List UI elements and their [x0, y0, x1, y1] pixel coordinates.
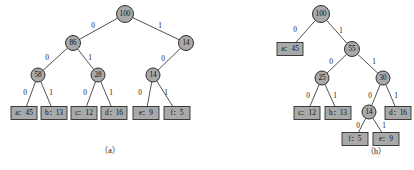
- node-label-a_28: 28: [94, 71, 102, 79]
- node-label-a_58: 58: [34, 71, 42, 79]
- edge-label-b_root-b_leaf_a: 0: [293, 25, 297, 34]
- leaf-label-b_leaf_e: e：9: [379, 134, 393, 143]
- node-label-b_25: 25: [318, 74, 326, 82]
- edge-a_14-to-a_leaf_e: [147, 82, 152, 107]
- edge-label-a_28-a_leaf_d: 1: [109, 88, 113, 97]
- edge-label-b_55-b_30: 1: [372, 57, 376, 66]
- edge-label-a_14r-a_14: 0: [161, 54, 165, 63]
- node-label-b_14: 14: [365, 108, 373, 116]
- edge-label-a_58-a_leaf_a: 0: [23, 88, 27, 97]
- edge-a_58-to-a_leaf_a: [26, 82, 35, 107]
- diagram-b: 0101010101100a：45552530c：12b：1314d：16f：5…: [277, 6, 411, 146]
- edge-label-a_28-a_leaf_c: 0: [83, 88, 87, 97]
- edge-b_14-to-b_leaf_e: [373, 118, 382, 133]
- edge-label-b_25-b_leaf_b: 1: [333, 91, 337, 100]
- leaf-label-a_leaf_d: d：16: [105, 108, 123, 117]
- edge-label-a_root-a_14r: 1: [158, 21, 162, 30]
- diagram-a: 010100101011008614582814a：45b：13c：12d：16…: [11, 6, 194, 120]
- node-label-b_30: 30: [379, 74, 387, 82]
- leaf-label-a_leaf_a: a：45: [15, 108, 33, 117]
- edge-label-b_30-b_14: 0: [368, 91, 372, 100]
- edge-label-b_14-b_leaf_e: 1: [382, 121, 386, 130]
- leaf-label-b_leaf_c: c：12: [298, 108, 316, 117]
- edge-a_root-to-a_14r: [133, 18, 180, 40]
- caption-a: （a）: [100, 146, 120, 155]
- edge-label-b_25-b_leaf_c: 0: [306, 91, 310, 100]
- edge-label-b_55-b_25: 0: [329, 57, 333, 66]
- edge-a_28-to-a_leaf_c: [86, 82, 95, 107]
- edge-label-a_14-a_leaf_f: 1: [164, 88, 168, 97]
- leaf-label-a_leaf_e: e：9: [139, 108, 153, 117]
- edge-b_root-to-b_leaf_a: [296, 20, 316, 42]
- edge-label-b_14-b_leaf_f: 0: [356, 121, 360, 130]
- leaf-label-a_leaf_c: c：12: [75, 108, 93, 117]
- leaf-label-a_leaf_b: b：13: [45, 108, 63, 117]
- caption-b: （b）: [366, 147, 386, 156]
- node-label-b_55: 55: [348, 45, 356, 53]
- leaf-label-b_leaf_d: d：16: [389, 108, 407, 117]
- edge-label-a_58-a_leaf_b: 1: [49, 88, 53, 97]
- node-label-a_86: 86: [69, 39, 77, 47]
- node-label-a_root: 100: [120, 10, 131, 18]
- node-label-b_root: 100: [316, 10, 327, 18]
- edge-label-a_14-a_leaf_e: 0: [138, 88, 142, 97]
- leaf-label-b_leaf_f: f：5: [348, 134, 361, 143]
- node-label-a_14: 14: [149, 71, 157, 79]
- leaf-label-b_leaf_a: a：45: [281, 44, 299, 53]
- figure-canvas: 010100101011008614582814a：45b：13c：12d：16…: [0, 0, 414, 170]
- edge-label-a_86-a_28: 1: [88, 53, 92, 62]
- leaf-label-a_leaf_f: f：5: [170, 108, 183, 117]
- edge-label-b_root-b_55: 1: [339, 26, 343, 35]
- edge-label-a_86-a_58: 0: [45, 53, 49, 62]
- leaf-label-b_leaf_b: b：13: [329, 108, 347, 117]
- edge-label-a_root-a_86: 0: [91, 21, 95, 30]
- huffman-tree-figure: 010100101011008614582814a：45b：13c：12d：16…: [0, 0, 414, 170]
- edge-label-b_30-b_leaf_d: 1: [394, 91, 398, 100]
- edge-b_30-to-b_14: [372, 84, 381, 105]
- edge-b_25-to-b_leaf_c: [310, 84, 319, 106]
- edge-b_root-to-b_55: [327, 20, 347, 43]
- node-label-a_14r: 14: [182, 39, 190, 47]
- edge-a_root-to-a_86: [80, 18, 118, 39]
